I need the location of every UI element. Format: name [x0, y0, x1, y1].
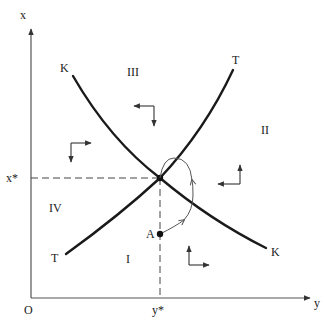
axes: x y O [20, 8, 320, 317]
horizontal-axis-label: y [314, 296, 320, 310]
trajectory-segment-1 [160, 220, 184, 234]
vertical-axis-label: x [20, 8, 26, 22]
region-iv-arrows [71, 143, 91, 162]
t-curve-label-bottom: T [51, 251, 59, 265]
region-iii-label: III [127, 65, 139, 79]
k-curve-label-top: K [60, 61, 69, 75]
origin-label: O [24, 303, 33, 317]
region-iii-arrows [134, 106, 154, 126]
equilibrium-guides: x* y* [6, 171, 164, 317]
region-i-arrows [189, 246, 209, 265]
point-a-label: A [146, 227, 155, 241]
x-star-label: x* [6, 171, 18, 185]
y-star-label: y* [152, 303, 164, 317]
region-iv-label: IV [49, 201, 62, 215]
point-a [157, 231, 163, 237]
t-curve-label-top: T [232, 53, 240, 67]
trajectory-segment-3 [192, 180, 193, 195]
region-ii-arrows [218, 165, 240, 184]
k-curve-label-bottom: K [271, 245, 280, 259]
direction-arrows [71, 106, 240, 265]
region-ii-label: II [261, 123, 269, 137]
region-i-label: I [126, 252, 130, 266]
k-curve-line [73, 76, 266, 248]
phase-diagram: x y O x* y* K K T T A I II III IV [0, 0, 333, 327]
